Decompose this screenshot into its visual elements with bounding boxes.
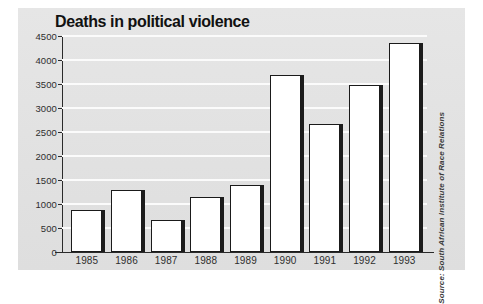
y-axis-tick-label: 2000 bbox=[35, 151, 57, 162]
source-note: Source: South African Institute of Race … bbox=[437, 112, 446, 304]
chart-title: Deaths in political violence bbox=[55, 12, 250, 31]
y-axis-tick-label: 3500 bbox=[35, 79, 57, 90]
bar-slot bbox=[67, 36, 107, 252]
bar-slot bbox=[146, 36, 186, 252]
x-axis-tick-label: 1993 bbox=[384, 255, 424, 266]
x-axis-tick-label: 1986 bbox=[107, 255, 147, 266]
x-axis-line bbox=[55, 252, 434, 253]
bar-slot bbox=[226, 36, 266, 252]
bar-1985[interactable] bbox=[71, 210, 102, 252]
y-axis-tick-label: 4000 bbox=[35, 55, 57, 66]
bar-series bbox=[62, 36, 427, 252]
y-axis-tick-label: 1500 bbox=[35, 175, 57, 186]
x-axis-tick-label: 1991 bbox=[305, 255, 345, 266]
x-axis-tick-label: 1992 bbox=[345, 255, 385, 266]
y-axis-tick-label: 500 bbox=[41, 223, 57, 234]
bar-1992[interactable] bbox=[349, 85, 380, 252]
y-axis-labels: 050010001500200025003000350040004500 bbox=[0, 0, 57, 288]
bar-1986[interactable] bbox=[111, 190, 142, 252]
bar-1991[interactable] bbox=[309, 124, 340, 252]
bar-1989[interactable] bbox=[230, 185, 261, 252]
bar-1993[interactable] bbox=[389, 43, 420, 252]
y-axis-tick-label: 3000 bbox=[35, 103, 57, 114]
x-axis-tick-label: 1990 bbox=[265, 255, 305, 266]
bar-1987[interactable] bbox=[151, 220, 182, 252]
bar-slot bbox=[384, 36, 424, 252]
x-axis-labels: 198519861987198819891990199119921993 bbox=[62, 255, 427, 266]
plot-area bbox=[62, 36, 427, 252]
bar-1990[interactable] bbox=[270, 75, 301, 252]
bar-slot bbox=[305, 36, 345, 252]
x-axis-tick-label: 1988 bbox=[186, 255, 226, 266]
bar-1988[interactable] bbox=[190, 197, 221, 252]
x-axis-tick-label: 1987 bbox=[146, 255, 186, 266]
bar-slot bbox=[107, 36, 147, 252]
bar-slot bbox=[186, 36, 226, 252]
y-axis-tick-label: 1000 bbox=[35, 199, 57, 210]
x-axis-tick-label: 1985 bbox=[67, 255, 107, 266]
y-axis-tick-label: 2500 bbox=[35, 127, 57, 138]
x-axis-tick-label: 1989 bbox=[226, 255, 266, 266]
y-axis-tick-label: 4500 bbox=[35, 31, 57, 42]
bar-slot bbox=[345, 36, 385, 252]
bar-slot bbox=[265, 36, 305, 252]
